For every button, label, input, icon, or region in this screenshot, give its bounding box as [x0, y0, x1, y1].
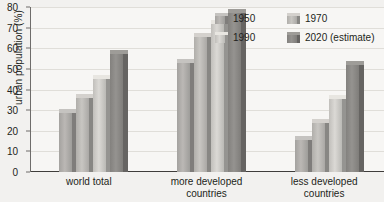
- legend-swatch-cube-icon: [287, 32, 300, 43]
- legend-swatch-cube-icon: [287, 13, 300, 24]
- y-tick-label: 30: [7, 105, 18, 116]
- bar: [194, 37, 207, 172]
- legend-label: 2020 (estimate): [305, 32, 374, 43]
- x-axis-category-label: less developed countries: [265, 176, 383, 199]
- bar: [59, 113, 72, 172]
- x-axis-category-label: more developed countries: [148, 176, 266, 199]
- legend-label: 1990: [233, 32, 255, 43]
- bar-top: [329, 95, 347, 99]
- bar-top: [76, 94, 94, 98]
- legend-row: 19902020 (estimate): [215, 28, 380, 47]
- legend-item[interactable]: 1950: [215, 13, 281, 24]
- y-axis-ticks: 01020304050607080: [0, 0, 26, 202]
- bar: [295, 140, 308, 172]
- legend-label: 1970: [305, 13, 327, 24]
- bar-face: [329, 99, 342, 172]
- bar-top: [177, 59, 195, 63]
- bar-face: [194, 37, 207, 172]
- bar-top: [110, 50, 128, 54]
- bar: [110, 54, 123, 172]
- y-tick-label: 10: [7, 146, 18, 157]
- bar-face: [110, 54, 123, 172]
- legend-item[interactable]: 1990: [215, 32, 281, 43]
- legend-swatch-cube-icon: [215, 32, 228, 43]
- bar-top: [295, 136, 313, 140]
- bar-top: [93, 75, 111, 79]
- y-tick-label: 50: [7, 63, 18, 74]
- bar-top: [194, 33, 212, 37]
- y-tick-label: 70: [7, 22, 18, 33]
- bar-face: [312, 123, 325, 173]
- bar-face: [346, 65, 359, 172]
- bar-side: [359, 65, 364, 172]
- bar: [93, 79, 106, 172]
- bar-face: [177, 63, 190, 172]
- legend-row: 19501970: [215, 9, 380, 28]
- legend-item[interactable]: 2020 (estimate): [287, 32, 374, 43]
- bar-side: [123, 54, 128, 172]
- y-tick-label: 80: [7, 2, 18, 13]
- bar: [312, 123, 325, 173]
- chart-legend: 1950197019902020 (estimate): [215, 9, 380, 47]
- bar-face: [93, 79, 106, 172]
- legend-label: 1950: [233, 13, 255, 24]
- bar: [177, 63, 190, 172]
- bar: [76, 98, 89, 172]
- bar: [346, 65, 359, 172]
- bar-face: [76, 98, 89, 172]
- bar-top: [59, 109, 77, 113]
- gridline: [31, 7, 384, 8]
- bar-top: [346, 61, 364, 65]
- urban-population-bar-chart: urban population (%) 01020304050607080 1…: [0, 0, 384, 202]
- bar-top: [312, 119, 330, 123]
- bar-face: [295, 140, 308, 172]
- y-tick-label: 0: [12, 167, 18, 178]
- bar-face: [59, 113, 72, 172]
- bar: [329, 99, 342, 172]
- y-tick-label: 40: [7, 84, 18, 95]
- y-tick-label: 20: [7, 125, 18, 136]
- y-tick-label: 60: [7, 43, 18, 54]
- x-axis-category-label: world total: [30, 176, 148, 188]
- legend-swatch-cube-icon: [215, 13, 228, 24]
- legend-item[interactable]: 1970: [287, 13, 327, 24]
